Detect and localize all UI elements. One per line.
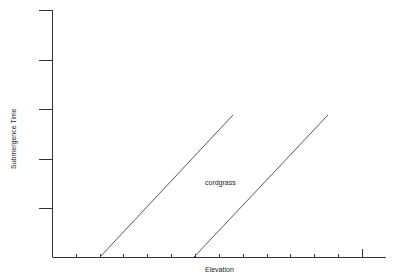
y-axis-label: Submergence Time: [10, 108, 18, 169]
y-ticks: [39, 11, 53, 209]
x-ticks: [77, 249, 363, 258]
series-lower-boundary: [100, 115, 233, 257]
x-axis-label: Elevation: [205, 266, 234, 273]
chart: Elevation Submergence Time cordgrass: [0, 0, 393, 278]
annotation-cordgrass: cordgrass: [205, 179, 236, 187]
series-upper-boundary: [194, 115, 328, 257]
